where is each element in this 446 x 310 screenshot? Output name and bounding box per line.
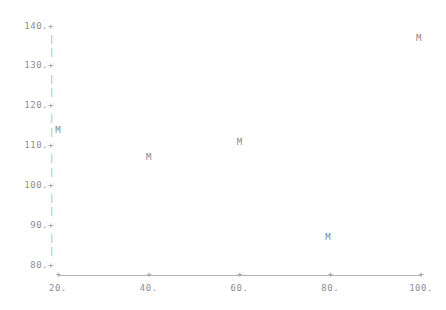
x-axis-tick-mark: + xyxy=(56,270,61,279)
y-tick-label: 140. xyxy=(14,22,48,31)
y-axis-tick-mark: + xyxy=(48,181,53,190)
y-axis-minor-mark: | xyxy=(49,194,54,203)
x-tick-label: 20. xyxy=(49,284,67,293)
x-axis-tick-mark: + xyxy=(328,270,333,279)
x-axis-tick-mark: + xyxy=(237,270,242,279)
y-axis-minor-mark: | xyxy=(49,114,54,123)
x-tick-label: 100. xyxy=(409,284,433,293)
y-axis-tick-mark: + xyxy=(48,261,53,270)
y-axis-minor-mark: | xyxy=(49,207,54,216)
y-axis-minor-mark: | xyxy=(49,154,54,163)
data-point-marker: M xyxy=(55,125,60,134)
y-axis-minor-mark: | xyxy=(49,75,54,84)
y-tick-label: 110. xyxy=(14,141,48,150)
y-axis-tick-mark: + xyxy=(48,141,53,150)
y-tick-label: 120. xyxy=(14,101,48,110)
y-axis-tick-mark: + xyxy=(48,61,53,70)
x-tick-label: 40. xyxy=(140,284,158,293)
y-axis-minor-mark: | xyxy=(49,247,54,256)
y-axis-minor-mark: | xyxy=(49,48,54,57)
data-point-marker: M xyxy=(237,137,242,146)
y-axis-minor-mark: | xyxy=(49,168,54,177)
ascii-scatter-plot: 80.+90.+100.+110.+120.+130.+140.+|||||||… xyxy=(0,0,446,310)
y-tick-label: 130. xyxy=(14,61,48,70)
y-tick-label: 90. xyxy=(14,221,48,230)
x-tick-label: 80. xyxy=(321,284,339,293)
y-axis-tick-mark: + xyxy=(48,22,53,31)
y-axis-minor-mark: | xyxy=(49,35,54,44)
y-axis-minor-mark: | xyxy=(49,234,54,243)
y-axis: 80.+90.+100.+110.+120.+130.+140.+|||||||… xyxy=(0,0,80,310)
x-axis-tick-mark: + xyxy=(146,270,151,279)
y-axis-minor-mark: | xyxy=(49,128,54,137)
data-point-marker: M xyxy=(325,233,330,242)
data-point-marker: M xyxy=(146,153,151,162)
data-point-marker: M xyxy=(416,33,421,42)
y-tick-label: 80. xyxy=(14,261,48,270)
y-axis-tick-mark: + xyxy=(48,101,53,110)
y-axis-tick-mark: + xyxy=(48,221,53,230)
x-tick-label: 60. xyxy=(231,284,249,293)
y-tick-label: 100. xyxy=(14,181,48,190)
x-axis-tick-mark: + xyxy=(419,270,424,279)
y-axis-minor-mark: | xyxy=(49,88,54,97)
